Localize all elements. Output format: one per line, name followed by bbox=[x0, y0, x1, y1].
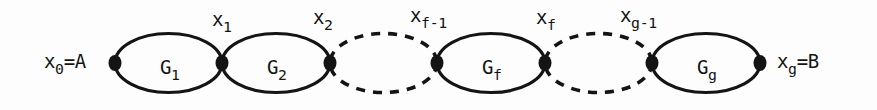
vertex-label-subscript: g-1 bbox=[631, 14, 657, 31]
vertex-label-base: x bbox=[620, 4, 631, 26]
vertex-xf bbox=[539, 55, 552, 71]
graph-block-gap1 bbox=[330, 34, 437, 93]
graph-label-subscript: g bbox=[708, 66, 717, 83]
vertex-xg bbox=[754, 55, 767, 71]
graph-label-base: G bbox=[697, 56, 708, 78]
vertex-label-subscript: g bbox=[788, 60, 797, 77]
vertex-x2 bbox=[324, 55, 337, 71]
vertex-label-xg1: xg-1 bbox=[620, 6, 657, 31]
vertex-x0 bbox=[109, 55, 122, 71]
graph-label-base: G bbox=[482, 56, 493, 78]
vertex-label-base: x bbox=[777, 50, 788, 72]
graph-block-label-Gf: Gf bbox=[482, 58, 502, 83]
vertex-label-base: x bbox=[536, 6, 547, 28]
chain-of-graphs-figure: G1G2GfGgx0=Ax1x2xf-1xfxg-1xg=B bbox=[0, 0, 877, 110]
vertex-label-x2: x2 bbox=[313, 8, 333, 33]
graph-block-label-G2: G2 bbox=[267, 58, 287, 83]
vertex-label-xg: xg=B bbox=[777, 52, 819, 77]
graph-block-label-Gg: Gg bbox=[697, 58, 717, 83]
graph-label-subscript: f bbox=[493, 66, 502, 83]
vertex-label-suffix: =A bbox=[64, 50, 86, 72]
vertex-xg1 bbox=[646, 55, 659, 71]
graph-block-label-G1: G1 bbox=[160, 58, 180, 83]
vertex-label-suffix: =B bbox=[797, 50, 819, 72]
graph-label-subscript: 1 bbox=[171, 66, 180, 83]
vertex-label-xf: xf bbox=[536, 8, 556, 33]
vertex-xf1 bbox=[431, 55, 444, 71]
node-layer bbox=[109, 55, 767, 71]
vertex-label-base: x bbox=[313, 6, 324, 28]
vertex-label-base: x bbox=[410, 4, 421, 26]
vertex-label-subscript: f bbox=[547, 16, 556, 33]
graph-label-subscript: 2 bbox=[278, 66, 287, 83]
vertex-x1 bbox=[216, 55, 229, 71]
graph-block-gap2 bbox=[545, 34, 652, 93]
vertex-label-subscript: 0 bbox=[55, 60, 64, 77]
graph-label-base: G bbox=[267, 56, 278, 78]
vertex-label-x1: x1 bbox=[212, 10, 232, 35]
vertex-label-x0: x0=A bbox=[44, 52, 86, 77]
graph-label-base: G bbox=[160, 56, 171, 78]
vertex-label-subscript: 2 bbox=[324, 16, 333, 33]
vertex-label-xf1: xf-1 bbox=[410, 6, 447, 31]
vertex-label-base: x bbox=[44, 50, 55, 72]
vertex-label-base: x bbox=[212, 8, 223, 30]
vertex-label-subscript: f-1 bbox=[421, 14, 447, 31]
vertex-label-subscript: 1 bbox=[223, 18, 232, 35]
